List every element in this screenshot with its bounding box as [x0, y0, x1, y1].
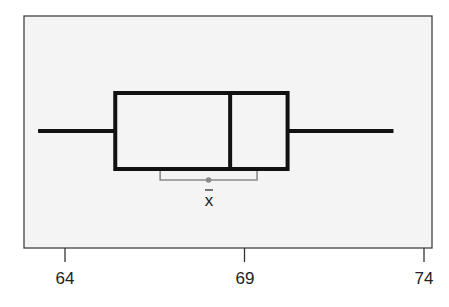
- x-axis: [65, 248, 424, 262]
- boxplot-chart: 64 69 74 x: [0, 0, 449, 307]
- mean-label: x: [205, 191, 214, 210]
- tick-label-64: 64: [56, 269, 75, 288]
- mean-dot: [206, 177, 212, 183]
- tick-label-74: 74: [415, 269, 434, 288]
- tick-label-69: 69: [236, 269, 255, 288]
